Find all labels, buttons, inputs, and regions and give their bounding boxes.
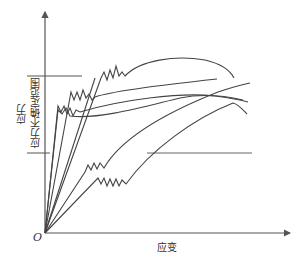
stress-strain-diagram xyxy=(0,0,295,258)
curve-4 xyxy=(45,96,243,233)
curve-5 xyxy=(45,103,247,233)
curve-2 xyxy=(45,79,217,233)
curve-3 xyxy=(45,95,248,233)
x-axis-label: 应变 xyxy=(157,239,177,254)
curves xyxy=(45,58,250,233)
origin-label: O xyxy=(33,231,42,244)
y-axis-label: 应力 xyxy=(14,104,29,124)
uncertainty-range-label: 应力不确定范围 xyxy=(28,78,43,148)
